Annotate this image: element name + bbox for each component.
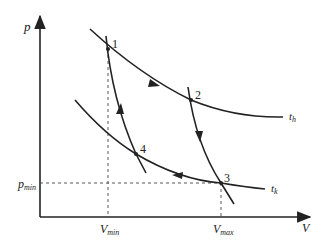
point-1-marker — [106, 47, 110, 51]
state-points — [106, 47, 223, 185]
v-min-label: Vmin — [100, 222, 119, 237]
y-axis-label: p — [23, 19, 31, 34]
p-min-label: pmin — [17, 177, 36, 192]
arrow-1-2-icon — [148, 79, 160, 87]
point-2-label: 2 — [195, 88, 201, 102]
arrow-4-1-icon — [116, 103, 124, 114]
adiabats — [106, 36, 234, 204]
point-2-marker — [189, 98, 193, 102]
hot-isotherm-label: th — [289, 110, 296, 124]
point-1-label: 1 — [112, 37, 118, 51]
point-4-marker — [134, 152, 138, 156]
isotherms — [75, 29, 283, 189]
adiabat-2-3-curve — [188, 87, 234, 204]
direction-arrows — [116, 79, 203, 179]
point-3-label: 3 — [224, 171, 230, 185]
reference-lines — [40, 49, 221, 217]
pv-diagram: 1 2 3 4 p V pmin Vmin Vmax th tk — [0, 0, 324, 245]
cold-isotherm-label: tk — [271, 182, 278, 196]
arrow-2-3-icon — [195, 131, 203, 142]
point-3-marker — [219, 181, 223, 185]
x-axis-label: V — [302, 221, 311, 235]
point-4-label: 4 — [140, 142, 146, 156]
v-max-label: Vmax — [213, 222, 234, 237]
